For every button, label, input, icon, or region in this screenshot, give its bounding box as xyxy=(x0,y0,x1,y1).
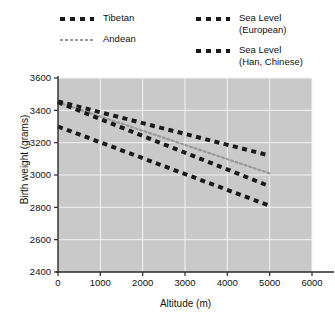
x-axis-tick-label: 2000 xyxy=(132,277,153,288)
x-axis-tick-label: 5000 xyxy=(259,277,280,288)
x-axis-tick-label: 3000 xyxy=(174,277,195,288)
y-axis-tick-label: 3000 xyxy=(30,169,51,180)
legend-label-sea-level-european: Sea Level (European) xyxy=(239,12,287,35)
legend-swatch-dotted-line-icon xyxy=(60,35,94,45)
legend-column-left: Tibetan Andean xyxy=(60,12,136,54)
legend-column-right: Sea Level (European) Sea Level (Han, Chi… xyxy=(196,12,303,76)
y-axis-tick-label: 2400 xyxy=(30,266,51,277)
y-axis-tick-label: 3600 xyxy=(30,72,51,83)
plot-area-wrapper: Birth weight (grams) Altitude (m) 240026… xyxy=(0,70,335,321)
legend-label-line2: (European) xyxy=(239,24,287,35)
legend-label-tibetan: Tibetan xyxy=(103,12,134,24)
legend-item-sea-level-european: Sea Level (European) xyxy=(196,12,303,35)
legend-label-line2: (Han, Chinese) xyxy=(239,56,303,67)
x-axis-tick-label: 0 xyxy=(55,277,60,288)
chart-legend: Tibetan Andean Sea Level (European) Sea … xyxy=(0,0,335,72)
x-axis-tick-label: 4000 xyxy=(217,277,238,288)
y-axis-tick-label: 3400 xyxy=(30,105,51,116)
legend-label-line1: Sea Level xyxy=(239,44,281,55)
chart-figure: Tibetan Andean Sea Level (European) Sea … xyxy=(0,0,335,321)
y-axis-tick-label: 3200 xyxy=(30,137,51,148)
x-axis-tick-label: 6000 xyxy=(301,277,322,288)
y-axis-tick-label: 2600 xyxy=(30,234,51,245)
chart-svg: 2400260028003000320034003600010002000300… xyxy=(0,70,335,321)
legend-label-sea-level-han-chinese: Sea Level (Han, Chinese) xyxy=(239,44,303,67)
legend-item-tibetan: Tibetan xyxy=(60,12,136,24)
legend-swatch-dashed-line-icon xyxy=(196,14,230,24)
legend-item-andean: Andean xyxy=(60,33,136,45)
x-axis-tick-label: 1000 xyxy=(90,277,111,288)
legend-label-line1: Sea Level xyxy=(239,12,281,23)
legend-label-andean: Andean xyxy=(103,33,136,45)
legend-swatch-dashed-line-icon xyxy=(60,14,94,24)
y-axis-tick-label: 2800 xyxy=(30,202,51,213)
legend-item-sea-level-han-chinese: Sea Level (Han, Chinese) xyxy=(196,44,303,67)
legend-swatch-dashed-line-icon xyxy=(196,46,230,56)
